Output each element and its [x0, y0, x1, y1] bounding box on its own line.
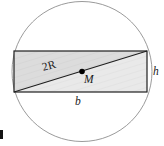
- center-label-m: M: [84, 74, 94, 86]
- geometry-figure: 2R M b h: [0, 0, 164, 146]
- figure-canvas: [0, 0, 164, 146]
- height-label-h: h: [153, 66, 159, 78]
- page-edge-mark: [0, 130, 3, 139]
- base-label-b: b: [75, 96, 81, 108]
